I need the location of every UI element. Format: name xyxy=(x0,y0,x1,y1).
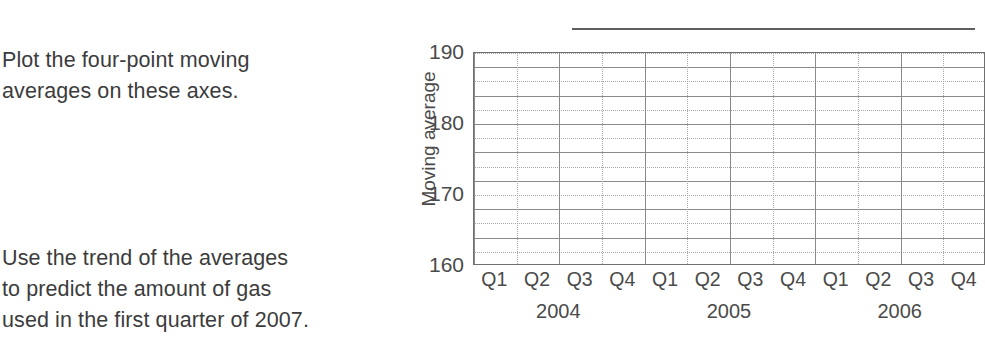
x-axis-quarter-label: Q2 xyxy=(524,268,550,291)
gridline-vertical xyxy=(559,53,560,264)
gridline-horizontal xyxy=(474,181,984,182)
gridline-vertical xyxy=(858,53,859,264)
x-axis-quarter-label: Q1 xyxy=(481,268,507,291)
x-axis-year-label: 2004 xyxy=(536,300,581,323)
x-axis-year-label: 2005 xyxy=(707,300,752,323)
x-axis-quarter-label: Q3 xyxy=(908,268,934,291)
exercise-prompt-plot-averages: Plot the four-point moving averages on t… xyxy=(2,45,250,107)
gridline-horizontal xyxy=(474,138,984,139)
y-axis-tick-label: 160 xyxy=(394,253,464,277)
gridline-horizontal xyxy=(474,209,984,210)
x-axis-quarter-label: Q2 xyxy=(695,268,721,291)
gridline-vertical xyxy=(517,53,518,264)
gridline-vertical xyxy=(602,53,603,264)
x-axis-quarter-label: Q2 xyxy=(865,268,891,291)
exercise-prompt-predict-trend: Use the trend of the averages to predict… xyxy=(2,243,309,336)
gridline-horizontal xyxy=(474,167,984,168)
x-axis-quarter-label: Q4 xyxy=(609,268,635,291)
x-axis-quarter-label: Q3 xyxy=(567,268,593,291)
y-axis-tick-label: 180 xyxy=(394,111,464,135)
gridline-horizontal xyxy=(474,67,984,68)
gridline-vertical xyxy=(687,53,688,264)
gridline-horizontal xyxy=(474,223,984,224)
gridline-vertical xyxy=(474,53,475,264)
gridline-vertical xyxy=(815,53,816,264)
gridline-vertical xyxy=(943,53,944,264)
plot-area xyxy=(473,52,985,265)
gridline-vertical xyxy=(645,53,646,264)
top-divider-rule xyxy=(572,28,975,30)
gridline-horizontal xyxy=(474,152,984,153)
x-axis-quarter-label: Q4 xyxy=(951,268,977,291)
gridline-horizontal xyxy=(474,238,984,239)
gridline-horizontal xyxy=(474,124,984,125)
x-axis-quarter-label: Q1 xyxy=(823,268,849,291)
y-axis-tick-label: 170 xyxy=(394,182,464,206)
y-axis-tick-label: 190 xyxy=(394,40,464,64)
x-axis-quarter-label: Q3 xyxy=(737,268,763,291)
x-axis-quarter-label: Q4 xyxy=(780,268,806,291)
gridline-horizontal xyxy=(474,195,984,196)
gridline-horizontal xyxy=(474,81,984,82)
gridline-vertical xyxy=(901,53,902,264)
gridline-vertical xyxy=(730,53,731,264)
gridline-vertical xyxy=(773,53,774,264)
moving-average-chart: Moving average 160170180190 Q1Q2Q3Q4Q1Q2… xyxy=(396,40,985,340)
gridline-horizontal xyxy=(474,53,984,54)
gridline-horizontal xyxy=(474,110,984,111)
gridline-horizontal xyxy=(474,96,984,97)
x-axis-year-label: 2006 xyxy=(877,300,922,323)
gridline-horizontal xyxy=(474,252,984,253)
x-axis-quarter-label: Q1 xyxy=(652,268,678,291)
